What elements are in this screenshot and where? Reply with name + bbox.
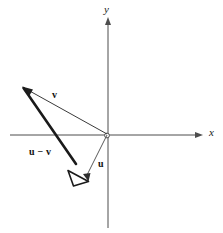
vector-u-label: u — [98, 159, 104, 169]
x-axis-arrowhead — [195, 132, 203, 138]
diagram-canvas — [0, 0, 223, 233]
vector-u-shaft — [87, 135, 108, 176]
axes-group — [10, 17, 203, 228]
vector-u-minus-v-label: u − v — [29, 147, 51, 157]
vector-u-minus-v-arrowhead — [68, 171, 89, 187]
vector-diagram-figure: y x v u u − v — [0, 0, 223, 233]
vector-v-label: v — [52, 90, 57, 100]
y-axis-arrowhead — [105, 17, 111, 25]
x-axis-label: x — [209, 127, 214, 138]
vector-u-minus-v — [24, 88, 89, 186]
y-axis-label: y — [104, 4, 109, 15]
vector-v — [22, 87, 107, 135]
